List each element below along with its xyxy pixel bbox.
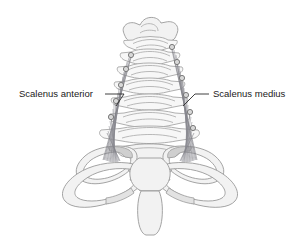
label-scalenus-medius: Scalenus medius (213, 88, 286, 99)
cervical-spine-group (100, 17, 200, 160)
manubrium (130, 158, 170, 191)
anatomy-illustration: Scalenus anterior Scalenus medius (0, 0, 308, 246)
anatomical-figure: Scalenus anterior Scalenus medius (0, 0, 308, 246)
clavicle-shade-left-2 (106, 188, 134, 204)
label-scalenus-anterior: Scalenus anterior (19, 88, 93, 99)
clavicle-shade-right-2 (166, 188, 194, 204)
sternum-body (138, 191, 163, 235)
vertebra-c7 (109, 110, 190, 128)
sternum-group (130, 158, 170, 235)
